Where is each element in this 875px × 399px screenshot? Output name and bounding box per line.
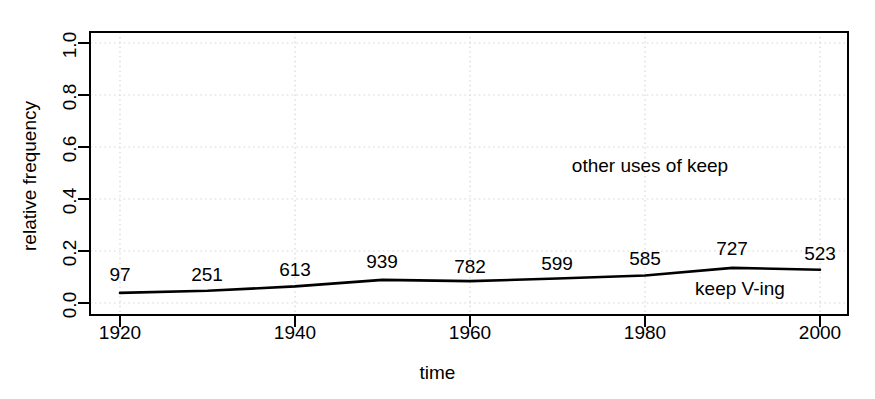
point-label-1920: 97 [80,264,160,286]
point-label-1940: 613 [255,259,335,281]
point-label-2000: 523 [780,243,860,265]
point-label-1960: 782 [430,256,510,278]
y-tick-label-5: 1.0 [59,15,81,75]
x-tick-label-1920: 1920 [75,322,165,344]
x-tick-label-1980: 1980 [600,322,690,344]
annotation-keep-v-ing: keep V-ing [640,278,840,300]
point-label-1990: 727 [692,238,772,260]
x-tick-label-2000: 2000 [775,322,865,344]
point-label-1980: 585 [605,248,685,270]
x-tick-label-1960: 1960 [425,322,515,344]
x-tick-label-1940: 1940 [250,322,340,344]
point-label-1950: 939 [342,251,422,273]
point-label-1970: 599 [517,253,597,275]
x-axis-title: time [0,362,875,384]
y-tick-label-4: 0.8 [59,67,81,127]
point-label-1930: 251 [167,264,247,286]
y-tick-label-1: 0.2 [59,223,81,283]
y-tick-label-2: 0.4 [59,171,81,231]
y-tick-label-3: 0.6 [59,119,81,179]
chart-figure: relative frequency time 0.0 0.2 0.4 0.6 … [0,0,875,399]
annotation-other-uses-of-keep: other uses of keep [510,155,790,177]
y-axis-title: relative frequency [19,36,41,316]
